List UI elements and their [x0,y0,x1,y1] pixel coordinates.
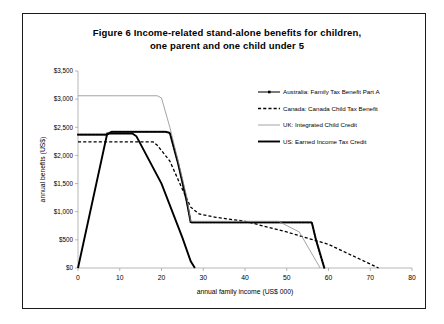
legend-marker-0 [268,91,271,94]
y-axis-title: annual benefits (US$) [39,137,47,203]
x-axis-title: annual family income (US$ 000) [197,288,294,296]
legend-label-0: Australia: Family Tax Benefit Part A [283,88,380,95]
legend-item-3: US: Earned Income Tax Credit [258,138,367,145]
x-tick-label: 60 [325,274,333,281]
y-tick-label: $3,000 [54,95,74,102]
y-tick-label: $500 [59,236,74,243]
x-tick-label: 80 [408,274,416,281]
x-tick-label: 70 [366,274,374,281]
legend-label-2: UK: Integrated Child Credit [283,121,357,128]
chart-plot-area: $0$500$1,000$1,500$2,000$2,500$3,000$3,5… [23,14,427,310]
y-tick-label: $2,500 [54,124,74,131]
x-tick-label: 20 [158,274,166,281]
x-tick-label: 30 [199,274,207,281]
legend-item-1: Canada: Canada Child Tax Benefit [258,105,378,112]
series-line-3 [78,133,195,268]
y-tick-label: $3,500 [54,67,74,74]
y-tick-label: $0 [66,264,74,271]
figure-frame: Figure 6 Income-related stand-alone bene… [22,13,426,309]
series-marker [323,267,325,269]
x-tick-label: 0 [76,274,80,281]
legend-item-2: UK: Integrated Child Credit [258,121,357,128]
legend-label-1: Canada: Canada Child Tax Benefit [283,105,378,112]
x-tick-label: 50 [283,274,291,281]
y-tick-label: $2,000 [54,152,74,159]
legend-item-0: Australia: Family Tax Benefit Part A [258,88,380,95]
y-tick-label: $1,500 [54,180,74,187]
x-tick-label: 40 [241,274,249,281]
benefits-line-chart: $0$500$1,000$1,500$2,000$2,500$3,000$3,5… [23,14,427,310]
legend-label-3: US: Earned Income Tax Credit [283,138,367,145]
y-tick-label: $1,000 [54,208,74,215]
series-line-0 [78,132,324,268]
series-line-1 [78,142,379,268]
x-tick-label: 10 [116,274,124,281]
